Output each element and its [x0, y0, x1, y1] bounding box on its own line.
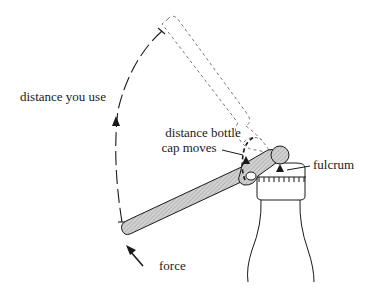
distance-you-use-arc — [116, 28, 165, 222]
label-distance-you-use: distance you use — [20, 90, 106, 104]
label-distance-cap-line2: cap moves — [149, 141, 229, 155]
arc-arrowhead — [112, 116, 120, 126]
fulcrum-leader — [287, 166, 310, 170]
label-fulcrum: fulcrum — [313, 158, 354, 172]
force-arrow — [126, 245, 143, 266]
label-force: force — [159, 259, 186, 273]
diagram-canvas: distance you use distance bottle cap mov… — [0, 0, 380, 291]
fulcrum-triangle — [276, 164, 284, 172]
bottle-cap-crimp — [253, 177, 306, 183]
label-distance-cap-line1: distance bottle — [149, 126, 257, 140]
lever-handle — [122, 146, 290, 235]
